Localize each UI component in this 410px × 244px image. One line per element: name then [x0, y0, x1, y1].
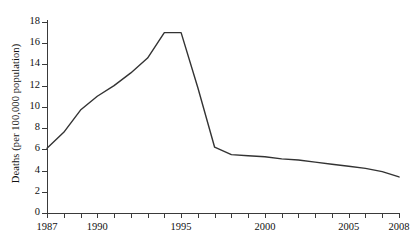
- data-line: [47, 33, 399, 177]
